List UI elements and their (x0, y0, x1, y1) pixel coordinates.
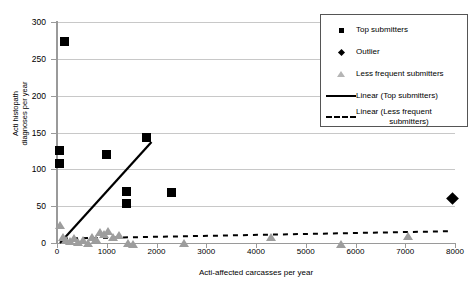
square-marker-icon (326, 23, 356, 37)
legend-label-wrapped: Linear (Less frequent submitters) (356, 107, 462, 126)
data-point-triangle (55, 221, 65, 229)
diamond-marker-icon (326, 45, 356, 59)
data-point-triangle (266, 233, 276, 241)
dashed-line-icon (326, 110, 356, 124)
data-point-triangle (179, 239, 189, 247)
data-point-square (55, 146, 64, 155)
legend-item-less-frequent-submitters: Less frequent submitters (326, 63, 462, 85)
y-axis-title-line2: diagnoses per year (20, 66, 29, 162)
data-point-triangle (114, 231, 124, 239)
data-point-triangle (403, 232, 413, 240)
legend-label: Less frequent submitters (356, 69, 462, 79)
legend: Top submitters Outlier Less frequent sub… (320, 14, 468, 127)
legend-label-line1: Linear (Less frequent (356, 107, 462, 117)
data-point-square (122, 187, 131, 196)
data-point-square (142, 133, 151, 142)
legend-label: Linear (Top submitters) (356, 91, 462, 101)
data-point-triangle (128, 240, 138, 248)
data-point-triangle (336, 240, 346, 248)
solid-line-icon (326, 89, 356, 103)
data-point-square (60, 37, 69, 46)
legend-label-line2: submitters) (356, 117, 462, 127)
data-point-square (167, 188, 176, 197)
legend-item-top-submitters: Top submitters (326, 19, 462, 41)
data-point-square (122, 199, 131, 208)
y-axis-title: Acti histopath diagnoses per year (12, 66, 29, 162)
chart-container: 050100150200250300 010002000300040005000… (0, 0, 476, 291)
triangle-marker-icon (326, 67, 356, 81)
legend-item-linear-less-frequent-submitters: Linear (Less frequent submitters) (326, 107, 462, 137)
data-point-square (102, 150, 111, 159)
data-point-square (55, 159, 64, 168)
legend-item-outlier: Outlier (326, 41, 462, 63)
legend-item-linear-top-submitters: Linear (Top submitters) (326, 85, 462, 107)
x-axis-title: Acti-affected carcasses per year (57, 268, 455, 277)
legend-label: Top submitters (356, 25, 462, 35)
legend-label: Outlier (356, 47, 462, 57)
